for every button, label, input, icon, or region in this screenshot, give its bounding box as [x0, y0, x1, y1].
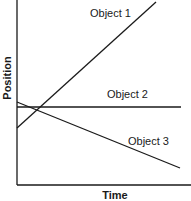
- series-label-object-1: Object 1: [90, 7, 131, 19]
- series-label-object-2: Object 2: [107, 88, 148, 100]
- x-axis-label: Time: [102, 189, 127, 201]
- y-axis-label: Position: [1, 56, 13, 100]
- series-line-object-1: [17, 2, 156, 128]
- series-label-object-3: Object 3: [128, 135, 169, 147]
- position-time-chart: Object 1 Object 2 Object 3 Time Position: [0, 0, 191, 201]
